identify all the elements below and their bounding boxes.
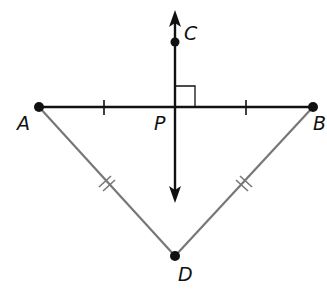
geometry-figure: A B C P D bbox=[0, 0, 327, 292]
label-d: D bbox=[178, 263, 193, 285]
right-angle-mark bbox=[175, 86, 195, 107]
label-c: C bbox=[184, 22, 198, 44]
point-c bbox=[171, 38, 180, 47]
point-d bbox=[170, 251, 180, 261]
label-a: A bbox=[15, 112, 30, 134]
segment-bd bbox=[175, 107, 313, 256]
label-b: B bbox=[313, 112, 326, 134]
point-a bbox=[34, 102, 44, 112]
label-p: P bbox=[154, 112, 166, 134]
point-b bbox=[308, 102, 318, 112]
